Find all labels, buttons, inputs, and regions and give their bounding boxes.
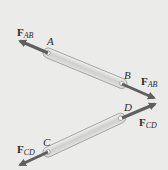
label-point-b: B [124,69,131,81]
label-fcd-d: FCD [139,116,157,130]
member-cd [41,112,127,159]
label-point-a: A [46,35,54,47]
label-fab-a: FAB [17,26,34,40]
member-ab [41,46,128,90]
label-point-c: C [43,136,51,148]
label-fab-b: FAB [141,75,158,89]
two-force-members-diagram: FAB A B FAB D FCD C FCD [0,0,168,170]
label-fcd-c: FCD [17,143,35,157]
label-point-d: D [123,101,132,113]
force-arrow-fab-a-icon [20,41,48,53]
